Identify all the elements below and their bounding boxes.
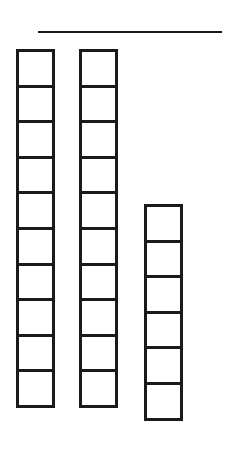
- unit-square: [16, 369, 55, 408]
- unit-square: [16, 85, 55, 124]
- unit-square: [79, 191, 118, 230]
- unit-square: [16, 49, 55, 88]
- unit-square: [144, 275, 183, 314]
- tens-rod-2: [79, 49, 118, 408]
- ones-stack: [144, 204, 183, 421]
- unit-square: [16, 156, 55, 195]
- unit-square: [16, 334, 55, 373]
- unit-square: [144, 240, 183, 279]
- unit-square: [79, 263, 118, 302]
- unit-square: [16, 227, 55, 266]
- answer-line: [38, 31, 222, 33]
- unit-square: [79, 227, 118, 266]
- unit-square: [144, 346, 183, 385]
- unit-square: [79, 334, 118, 373]
- unit-square: [144, 382, 183, 421]
- unit-square: [79, 120, 118, 159]
- unit-square: [16, 120, 55, 159]
- unit-square: [16, 298, 55, 337]
- tens-rod-1: [16, 49, 55, 408]
- unit-square: [79, 156, 118, 195]
- unit-square: [79, 85, 118, 124]
- unit-square: [144, 311, 183, 350]
- unit-square: [79, 369, 118, 408]
- unit-square: [144, 204, 183, 243]
- unit-square: [79, 298, 118, 337]
- unit-square: [16, 191, 55, 230]
- unit-square: [79, 49, 118, 88]
- unit-square: [16, 263, 55, 302]
